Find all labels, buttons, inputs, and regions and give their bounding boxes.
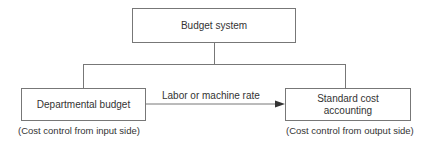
edge-label-labor-rate: Labor or machine rate xyxy=(162,90,260,101)
node-standard-cost-line1: Standard cost xyxy=(317,93,379,105)
caption-input-side: (Cost control from input side) xyxy=(18,125,140,136)
node-budget-system: Budget system xyxy=(132,8,296,43)
arrowhead-icon xyxy=(275,101,285,108)
node-departmental-budget-label: Departmental budget xyxy=(37,99,130,111)
node-standard-cost-line2: accounting xyxy=(324,105,372,117)
caption-output-side: (Cost control from output side) xyxy=(286,125,414,136)
node-standard-cost-accounting: Standard cost accounting xyxy=(285,88,411,121)
node-departmental-budget: Departmental budget xyxy=(21,88,146,121)
node-budget-system-label: Budget system xyxy=(181,20,247,32)
